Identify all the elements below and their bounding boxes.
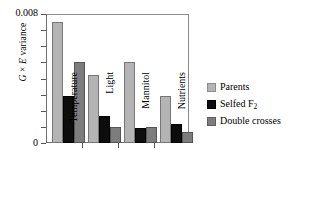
y-tick-label-zero: 0 — [0, 138, 38, 148]
legend-swatch-parents-icon — [207, 83, 216, 92]
legend-label-parents: Parents — [220, 81, 249, 93]
legend-swatch-selfed-f2-icon — [207, 100, 216, 109]
bar-mannitol-parents — [124, 62, 135, 143]
x-tick-sep-3 — [154, 143, 155, 148]
y-axis-title-times — [18, 72, 28, 74]
y-axis-title-multiply: × — [18, 66, 28, 71]
bar-light-parents — [88, 75, 99, 143]
legend-item-parents: Parents — [207, 81, 307, 94]
legend-label-selfed-f2: Selfed F2 — [220, 98, 257, 111]
x-category-label-nutrients: Nutrients — [176, 72, 187, 150]
x-category-label-mannitol: Mannitol — [140, 72, 151, 150]
chart-figure: G × E variance 0.008 0 Temperature Light — [0, 0, 311, 223]
x-category-label-light: Light — [104, 72, 115, 150]
y-tick-0 — [41, 143, 46, 144]
y-axis-title-e: E — [18, 58, 28, 64]
x-category-label-temperature: Temperature — [68, 72, 79, 150]
legend-item-double-crosses: Double crosses — [207, 115, 307, 128]
bar-temperature-parents — [52, 22, 63, 143]
legend-label-selfed-f2-main: Selfed F — [220, 98, 254, 109]
y-axis-title-variance: variance — [18, 23, 28, 56]
x-tick-sep-2 — [118, 143, 119, 148]
y-axis-title-g: G — [18, 74, 28, 81]
legend-swatch-double-crosses-icon — [207, 117, 216, 126]
legend-label-selfed-f2-sub: 2 — [254, 102, 258, 111]
y-tick-label-top: 0.008 — [0, 8, 38, 18]
x-tick-sep-1 — [82, 143, 83, 148]
legend-label-double-crosses: Double crosses — [220, 115, 281, 127]
bar-nutrients-parents — [160, 96, 171, 143]
legend-item-selfed-f2: Selfed F2 — [207, 98, 307, 111]
chart-legend: Parents Selfed F2 Double crosses — [207, 81, 307, 132]
